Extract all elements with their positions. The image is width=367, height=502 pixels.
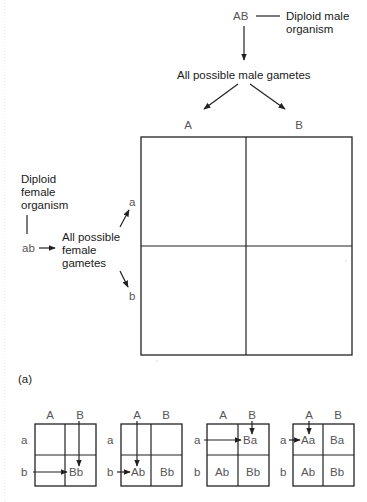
male-genotype: AB xyxy=(233,10,249,22)
grid3-row-a: a xyxy=(194,434,201,446)
speck xyxy=(345,260,346,261)
female-gamete-a: a xyxy=(129,196,136,208)
female-label-line1: Diploid xyxy=(21,173,56,185)
male-gametes-label: All possible male gametes xyxy=(177,69,311,81)
grid1-col-A: A xyxy=(46,409,54,421)
grid2-col-A: A xyxy=(133,409,141,421)
male-label-line1: Diploid male xyxy=(286,10,349,22)
grid4-row-b: b xyxy=(280,466,286,478)
grid4-col-B: B xyxy=(334,409,342,421)
grid3-cell-Ba: Ba xyxy=(243,434,258,446)
grid2-col-B: B xyxy=(162,409,170,421)
grid4-row-a: a xyxy=(280,434,287,446)
punnett-square-diagram: AB Diploid male organism All possible ma… xyxy=(0,0,367,502)
grid3-cell-Ab: Ab xyxy=(215,466,229,478)
small-grid-3: A B a b Ba Ab Bb xyxy=(194,409,269,486)
arrow-to-gamete-B xyxy=(250,84,285,109)
grid4-cell-Bb: Bb xyxy=(330,466,344,478)
female-gametes-line1: All possible xyxy=(62,231,120,243)
grid1-col-B: B xyxy=(76,409,84,421)
grid4-cell-Aa: Aa xyxy=(301,434,316,446)
grid4-cell-Ab: Ab xyxy=(301,466,315,478)
grid3-row-b: b xyxy=(194,466,200,478)
small-grid-1: A B a b Bb xyxy=(21,409,96,486)
grid2-row-a: a xyxy=(107,434,114,446)
arrow-to-gamete-a xyxy=(120,210,129,227)
grid4-col-A: A xyxy=(305,409,313,421)
grid4-cell-Ba: Ba xyxy=(330,434,345,446)
male-label-line2: organism xyxy=(286,23,333,35)
small-grid-4: A B a b Aa Ba Ab Bb xyxy=(280,409,354,486)
small-grid-2: A B a b Ab Bb xyxy=(107,409,182,486)
grid1-row-a: a xyxy=(21,434,28,446)
female-label-line3: organism xyxy=(21,199,68,211)
arrow-to-gamete-b xyxy=(120,271,128,287)
female-gametes-line3: gametes xyxy=(62,257,106,269)
panel-label: (a) xyxy=(18,373,32,385)
arrow-to-gamete-A xyxy=(204,84,238,109)
male-gamete-B: B xyxy=(295,119,303,131)
grid3-col-A: A xyxy=(219,409,227,421)
female-genotype: ab xyxy=(22,242,35,254)
male-gamete-A: A xyxy=(184,119,192,131)
grid1-cell-Bb: Bb xyxy=(69,466,83,478)
grid2-row-b: b xyxy=(107,466,113,478)
grid2-cell-Ab: Ab xyxy=(131,466,145,478)
grid3-col-B: B xyxy=(248,409,256,421)
speck xyxy=(156,360,157,361)
grid2-cell-Bb: Bb xyxy=(160,466,174,478)
female-gamete-b: b xyxy=(129,290,135,302)
female-gametes-line2: female xyxy=(62,244,97,256)
grid3-cell-Bb: Bb xyxy=(246,466,260,478)
female-label-line2: female xyxy=(21,186,56,198)
grid1-row-b: b xyxy=(21,466,27,478)
